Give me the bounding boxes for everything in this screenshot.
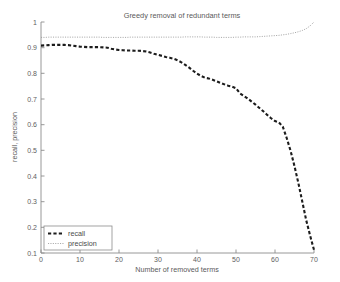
legend-label-recall: recall bbox=[68, 229, 86, 238]
y-tick-label: 0.1 bbox=[27, 250, 37, 257]
x-tick-label: 0 bbox=[39, 256, 43, 263]
x-axis-label: Number of removed terms bbox=[135, 265, 219, 274]
y-tick-label: 0.6 bbox=[27, 121, 37, 128]
y-tick-label: 0.7 bbox=[27, 96, 37, 103]
y-axis-ticks bbox=[41, 22, 45, 253]
series-line-recall bbox=[41, 45, 314, 250]
x-axis-tick-labels: 0 10 20 30 40 50 60 70 bbox=[39, 256, 318, 263]
chart-screenshot: Greedy removal of redundant terms 0.1 bbox=[0, 0, 340, 282]
y-tick-label: 0.9 bbox=[27, 44, 37, 51]
x-tick-label: 40 bbox=[193, 256, 201, 263]
chart-title-group: Greedy removal of redundant terms bbox=[124, 11, 241, 20]
line-chart: Greedy removal of redundant terms 0.1 bbox=[0, 0, 340, 282]
legend[interactable]: recall precision bbox=[44, 226, 112, 250]
x-tick-label: 20 bbox=[115, 256, 123, 263]
data-series-group bbox=[41, 22, 314, 250]
x-tick-label: 30 bbox=[154, 256, 162, 263]
x-tick-label: 50 bbox=[232, 256, 240, 263]
y-tick-label: 0.8 bbox=[27, 70, 37, 77]
y-tick-label: 0.5 bbox=[27, 147, 37, 154]
y-tick-label: 0.3 bbox=[27, 198, 37, 205]
x-tick-label: 10 bbox=[76, 256, 84, 263]
axes-lines bbox=[41, 22, 314, 253]
x-tick-label: 70 bbox=[310, 256, 318, 263]
y-tick-label: 0.4 bbox=[27, 173, 37, 180]
figure-container: Greedy removal of redundant terms 0.1 bbox=[0, 0, 340, 282]
x-tick-label: 60 bbox=[271, 256, 279, 263]
y-axis-label: recall, precision bbox=[10, 112, 19, 162]
y-tick-label: 0.2 bbox=[27, 224, 37, 231]
chart-title: Greedy removal of redundant terms bbox=[124, 11, 241, 20]
legend-label-precision: precision bbox=[68, 239, 97, 248]
series-line-precision bbox=[41, 22, 314, 37]
y-tick-label: 1 bbox=[33, 19, 37, 26]
y-axis-tick-labels: 0.1 0.2 0.3 0.4 0.5 0.6 0.7 0.8 0.9 1 bbox=[27, 19, 37, 257]
